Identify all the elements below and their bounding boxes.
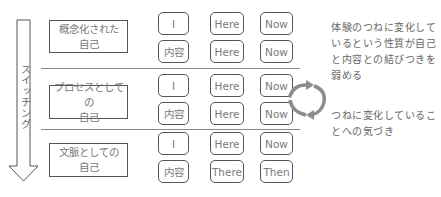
label-line: 文脈としての: [59, 145, 119, 160]
token-here: Here: [210, 40, 244, 63]
token-here: Here: [210, 132, 244, 155]
token-there: There: [210, 160, 244, 183]
label-line: 自己: [59, 37, 119, 52]
token-then: Then: [260, 160, 293, 183]
token-now: Now: [260, 132, 293, 155]
token-here: Here: [210, 12, 244, 35]
token-here: Here: [210, 74, 244, 97]
label-conceptualized-self: 概念化された 自己: [49, 20, 128, 53]
label-line: 自己: [50, 110, 127, 125]
label-line: 自己: [59, 160, 119, 175]
label-context-self: 文脈としての 自己: [49, 143, 128, 177]
token-content: 内容: [158, 40, 189, 63]
separator-line-1: [41, 68, 300, 69]
note-weakening-link: 体験のつねに変化して いるという性質が自己 と内容との結びつきを 弱める: [331, 20, 441, 84]
token-now: Now: [260, 40, 293, 63]
token-content: 内容: [158, 102, 189, 125]
label-line: プロセスとしての: [50, 80, 127, 110]
token-i: I: [158, 12, 189, 35]
token-i: I: [158, 132, 189, 155]
label-process-self: プロセスとしての 自己: [49, 85, 128, 119]
separator-line-2: [41, 129, 300, 130]
label-line: 概念化された: [59, 22, 119, 37]
token-content: 内容: [158, 160, 189, 183]
token-now: Now: [260, 12, 293, 35]
switching-label: スイッチング: [17, 64, 32, 130]
note-awareness-of-change: つねに変化しているこ とへの気づき: [331, 108, 441, 140]
token-here: Here: [210, 102, 244, 125]
token-i: I: [158, 74, 189, 97]
cycle-arrows-icon: [284, 78, 332, 126]
